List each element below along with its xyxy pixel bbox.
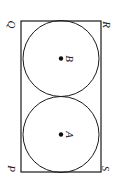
center-label-b: B xyxy=(64,55,75,62)
center-label-a: A xyxy=(64,131,75,138)
vertex-label-s: S xyxy=(100,166,111,172)
vertex-label-q: Q xyxy=(6,21,17,29)
vertex-label-p: P xyxy=(6,165,17,172)
center-dot-b xyxy=(59,56,63,60)
geometry-figure: Q R P S B A xyxy=(0,0,119,187)
center-dot-a xyxy=(59,132,63,136)
vertex-label-r: R xyxy=(101,21,112,28)
